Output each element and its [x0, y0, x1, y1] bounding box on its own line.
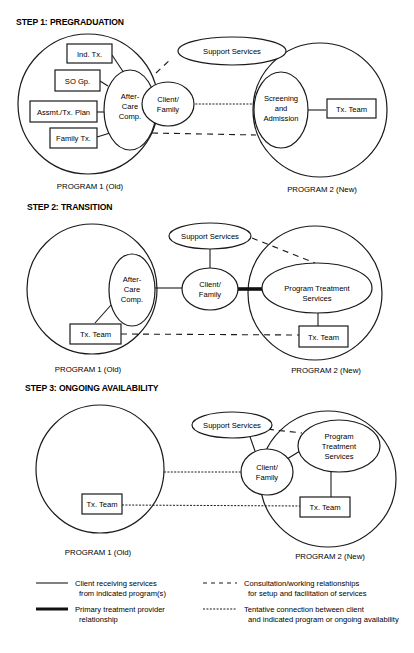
program-1-label: PROGRAM 1 (Old)	[65, 548, 132, 557]
svg-text:for setup and facilitation of: for setup and facilitation of services	[248, 589, 367, 598]
connector-team-aftercare	[95, 305, 111, 323]
svg-text:from indicated program(s): from indicated program(s)	[79, 589, 166, 598]
program-treatment-ellipse: Program Treatment Services	[262, 263, 372, 313]
legend-dashed: Consultation/working relationships for s…	[203, 579, 367, 598]
box-tx-team: Tx. Team	[327, 99, 376, 118]
box-ind-tx: Ind. Tx.	[67, 44, 112, 63]
connector-familytx-aftercare	[97, 133, 110, 137]
svg-text:SO Gp.: SO Gp.	[65, 77, 90, 86]
svg-text:Admission: Admission	[263, 114, 298, 123]
support-services-ellipse: Support Services	[178, 37, 286, 65]
svg-text:Family: Family	[256, 473, 279, 482]
program-2-label: PROGRAM 2 (New)	[287, 185, 357, 194]
box-tx-team-p2: Tx. Team	[299, 326, 348, 347]
svg-text:Tx. Team: Tx. Team	[80, 330, 111, 339]
diagram-canvas: STEP 1: PREGRADUATION Ind. Tx. SO Gp. As…	[0, 0, 414, 653]
step-3-title: STEP 3: ONGOING AVAILABILITY	[25, 383, 159, 393]
svg-text:Primary treatment provider: Primary treatment provider	[75, 605, 165, 614]
svg-text:After-: After-	[121, 92, 140, 101]
svg-text:Care: Care	[122, 102, 138, 111]
svg-text:Client/: Client/	[157, 95, 179, 104]
svg-text:Client receiving services: Client receiving services	[75, 579, 157, 588]
box-so-gp: SO Gp.	[55, 70, 100, 91]
step-1-title: STEP 1: PREGRADUATION	[16, 17, 124, 27]
box-tx-team-p1: Tx. Team	[82, 494, 122, 514]
svg-text:Consultation/working relations: Consultation/working relationships	[244, 579, 359, 588]
svg-text:and indicated program or ongoi: and indicated program or ongoing availab…	[248, 615, 399, 624]
svg-text:Treatment: Treatment	[322, 442, 357, 451]
svg-text:Tx. Team: Tx. Team	[86, 500, 117, 509]
step-3: STEP 3: ONGOING AVAILABILITY Tx. Team Su…	[25, 383, 396, 561]
client-family-ellipse: Client/ Family	[142, 82, 194, 126]
connector-team-team	[122, 505, 300, 506]
aftercare-ellipse: After- Care Comp.	[109, 254, 155, 326]
svg-text:Tentative connection between c: Tentative connection between client	[244, 605, 365, 614]
connector-support-treatment	[252, 238, 315, 263]
program-1-label: PROGRAM 1 (Old)	[57, 182, 124, 191]
box-assmt-tx-plan: Assmt./Tx. Plan	[30, 101, 97, 122]
client-family-ellipse: Client/ Family	[241, 449, 293, 495]
svg-text:Services: Services	[324, 452, 353, 461]
legend-thick: Primary treatment provider relationship	[36, 605, 165, 624]
box-tx-team-p2: Tx. Team	[300, 497, 350, 517]
connector-aftercare-screening	[152, 133, 256, 135]
svg-text:Tx. Team: Tx. Team	[308, 333, 339, 342]
svg-text:Services: Services	[302, 294, 331, 303]
svg-text:After-: After-	[123, 275, 142, 284]
svg-text:Comp.: Comp.	[121, 295, 143, 304]
svg-text:Care: Care	[124, 285, 140, 294]
program-2-label: PROGRAM 2 (New)	[291, 366, 361, 375]
program-1-label: PROGRAM 1 (Old)	[55, 365, 122, 374]
svg-text:Screening: Screening	[264, 94, 298, 103]
svg-text:Support Services: Support Services	[203, 421, 261, 430]
step-2: STEP 2: TRANSITION After- Care Comp. Tx.…	[27, 202, 382, 375]
svg-text:Family Tx.: Family Tx.	[56, 134, 91, 143]
svg-text:Program: Program	[324, 432, 353, 441]
connector-client-treatment	[287, 451, 300, 459]
box-family-tx: Family Tx.	[50, 128, 97, 148]
svg-text:Family: Family	[199, 290, 222, 299]
program-treatment-ellipse: Program Treatment Services	[298, 420, 380, 472]
svg-text:Assmt./Tx. Plan: Assmt./Tx. Plan	[37, 108, 90, 117]
svg-text:relationship: relationship	[79, 615, 118, 624]
connector-sogp-aftercare	[100, 81, 108, 86]
svg-text:Client/: Client/	[256, 463, 278, 472]
svg-text:Support Services: Support Services	[203, 47, 261, 56]
connector-team-team	[121, 334, 299, 335]
svg-text:and: and	[275, 104, 288, 113]
screening-admission-ellipse: Screening and Admission	[254, 72, 308, 148]
legend: Client receiving services from indicated…	[36, 579, 399, 624]
support-services-ellipse: Support Services	[192, 412, 272, 438]
step-2-title: STEP 2: TRANSITION	[27, 202, 112, 212]
connector-client-support	[156, 58, 172, 73]
svg-text:Client/: Client/	[199, 280, 221, 289]
svg-text:Family: Family	[157, 105, 180, 114]
connector-indtx-aftercare	[112, 55, 124, 73]
svg-text:Support Services: Support Services	[181, 232, 239, 241]
svg-text:Program Treatment: Program Treatment	[284, 284, 350, 293]
step-1: STEP 1: PREGRADUATION Ind. Tx. SO Gp. As…	[16, 17, 387, 194]
client-family-ellipse: Client/ Family	[182, 268, 238, 310]
box-tx-team-p1: Tx. Team	[70, 324, 121, 344]
svg-text:Tx. Team: Tx. Team	[336, 105, 367, 114]
legend-solid: Client receiving services from indicated…	[36, 579, 166, 598]
svg-text:Tx. Team: Tx. Team	[309, 503, 340, 512]
program-2-label: PROGRAM 2 (New)	[295, 552, 365, 561]
legend-dotted: Tentative connection between client and …	[203, 605, 399, 624]
svg-text:Ind. Tx.: Ind. Tx.	[77, 50, 102, 59]
support-services-ellipse: Support Services	[169, 223, 251, 249]
svg-text:Comp.: Comp.	[119, 112, 141, 121]
